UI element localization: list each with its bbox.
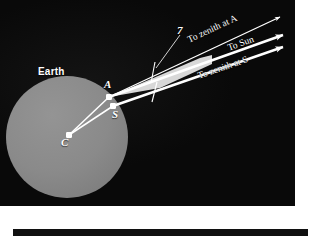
angle-leader-line <box>156 35 180 68</box>
point-marker-a <box>106 94 112 100</box>
point-marker-c <box>66 132 72 138</box>
point-marker-s <box>110 103 116 109</box>
diagram-svg <box>0 0 295 206</box>
figure-panel: Earth C A S 7 To zenith at A To Sun To z… <box>0 0 295 206</box>
page-root: Earth C A S 7 To zenith at A To Sun To z… <box>0 0 320 236</box>
ray-to-sun <box>109 35 283 97</box>
lower-panel <box>13 229 308 236</box>
